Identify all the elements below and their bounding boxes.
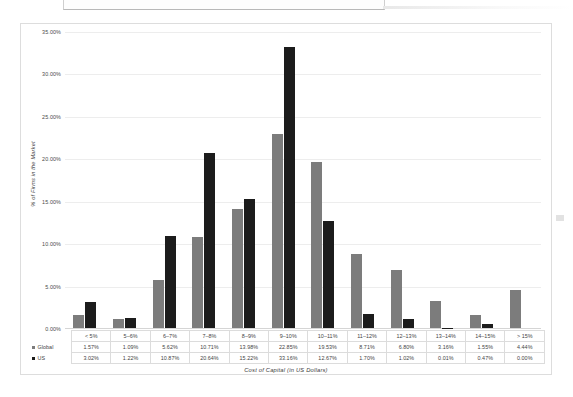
y-axis-tick-label: 35.00% — [42, 29, 61, 35]
legend-swatch-global-icon — [32, 346, 35, 349]
table-cell-us-value: 1.02% — [387, 353, 426, 364]
bar-global — [391, 270, 402, 328]
table-row-categories: < 5%5–6%6–7%7–8%8–9%9–10%10–11%11–12%12–… — [29, 331, 545, 342]
bar-global — [153, 280, 164, 328]
bar-group — [65, 32, 105, 328]
table-cell-us-value: 10.87% — [150, 353, 189, 364]
bar-us — [363, 314, 374, 328]
scan-artifact-smudge — [383, 6, 573, 9]
legend-label-global: Global — [38, 344, 54, 350]
table-cell-us-value: 12.67% — [308, 353, 347, 364]
y-axis-title: % of Firms in the Market — [30, 141, 36, 206]
table-cell-category: 10–11% — [308, 331, 347, 342]
table-cell-global-value: 1.09% — [111, 342, 150, 353]
bar-global — [430, 301, 441, 328]
table-cell-us-value: 0.00% — [505, 353, 545, 364]
bar-us — [284, 47, 295, 328]
bar-group — [462, 32, 502, 328]
table-cell-category: < 5% — [72, 331, 111, 342]
table-cell-category: 12–13% — [387, 331, 426, 342]
bar-group — [144, 32, 184, 328]
table-cell-global-value: 8.71% — [347, 342, 386, 353]
bar-group — [263, 32, 303, 328]
table-cell-category: 14–15% — [466, 331, 505, 342]
table-cell-category: 5–6% — [111, 331, 150, 342]
bar-group — [382, 32, 422, 328]
table-cell-us-value: 1.70% — [347, 353, 386, 364]
bar-global — [192, 237, 203, 328]
bar-us — [482, 324, 493, 328]
y-axis-tick-label: 10.00% — [42, 241, 61, 247]
bar-global — [73, 315, 84, 328]
legend-item-us: US — [29, 353, 72, 364]
table-cell-us-value: 15.22% — [229, 353, 268, 364]
table-cell-global-value: 1.55% — [466, 342, 505, 353]
scan-artifact-right-edge — [556, 215, 564, 221]
bar-us — [403, 319, 414, 328]
table-cell-category: 11–12% — [347, 331, 386, 342]
bar-global — [311, 162, 322, 328]
table-cell-global-value: 22.85% — [269, 342, 308, 353]
bar-us — [204, 153, 215, 328]
chart-container: % of Firms in the Market 35.00%30.00%25.… — [20, 23, 552, 375]
table-cell-category: 7–8% — [190, 331, 229, 342]
bar-us — [165, 236, 176, 328]
table-cell-global-value: 13.98% — [229, 342, 268, 353]
bar-global — [351, 254, 362, 328]
bar-us — [244, 199, 255, 328]
bar-group — [343, 32, 383, 328]
y-axis-tick-label: 25.00% — [42, 114, 61, 120]
table-row-us: US 3.02%1.22%10.87%20.64%15.22%33.16%12.… — [29, 353, 545, 364]
bar-series-group — [65, 32, 541, 328]
table-cell-category: 8–9% — [229, 331, 268, 342]
bar-group — [105, 32, 145, 328]
table-cell-us-value: 3.02% — [72, 353, 111, 364]
table-cell-global-value: 5.62% — [150, 342, 189, 353]
table-cell-category: > 15% — [505, 331, 545, 342]
table-cell-global-value: 3.16% — [426, 342, 465, 353]
bar-global — [272, 134, 283, 328]
bar-group — [224, 32, 264, 328]
bar-group — [303, 32, 343, 328]
x-axis-baseline — [65, 328, 541, 329]
data-table: < 5%5–6%6–7%7–8%8–9%9–10%10–11%11–12%12–… — [29, 330, 545, 364]
y-axis-tick-label: 5.00% — [45, 284, 61, 290]
table-cell-category: 6–7% — [150, 331, 189, 342]
table-cell-us-value: 33.16% — [269, 353, 308, 364]
x-axis-title: Cost of Capital (in US Dollars) — [21, 367, 551, 373]
bar-us — [125, 318, 136, 328]
plot-area: 35.00%30.00%25.00%20.00%15.00%10.00%5.00… — [65, 32, 541, 329]
table-cell-us-value: 20.64% — [190, 353, 229, 364]
bar-global — [510, 290, 521, 328]
table-cell-us-value: 0.47% — [466, 353, 505, 364]
y-axis-tick-label: 20.00% — [42, 156, 61, 162]
bar-global — [113, 319, 124, 328]
legend-swatch-us-icon — [32, 357, 35, 360]
table-cell-us-value: 1.22% — [111, 353, 150, 364]
bar-us — [323, 221, 334, 329]
table-cell-global-value: 19.53% — [308, 342, 347, 353]
table-cell-global-value: 4.44% — [505, 342, 545, 353]
table-cell-global-value: 6.80% — [387, 342, 426, 353]
bar-group — [501, 32, 541, 328]
y-axis-tick-label: 30.00% — [42, 71, 61, 77]
table-cell-us-value: 0.01% — [426, 353, 465, 364]
table-cell-global-value: 10.71% — [190, 342, 229, 353]
table-cell-global-value: 1.57% — [72, 342, 111, 353]
table-cell-category: 13–14% — [426, 331, 465, 342]
bar-us — [85, 302, 96, 328]
table-row-global: Global 1.57%1.09%5.62%10.71%13.98%22.85%… — [29, 342, 545, 353]
bar-global — [232, 209, 243, 328]
bar-global — [470, 315, 481, 328]
legend-label-us: US — [38, 355, 46, 361]
table-corner-cell — [29, 331, 72, 342]
table-cell-category: 9–10% — [269, 331, 308, 342]
bar-group — [422, 32, 462, 328]
scan-artifact-top — [63, 0, 385, 10]
legend-item-global: Global — [29, 342, 72, 353]
y-axis-tick-label: 15.00% — [42, 199, 61, 205]
bar-group — [184, 32, 224, 328]
